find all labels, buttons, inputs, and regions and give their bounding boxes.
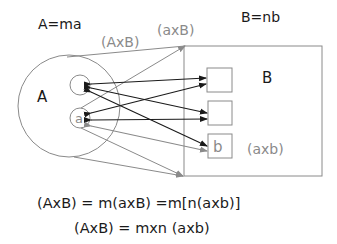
set-a-circle	[18, 55, 120, 157]
element-b-label: b	[213, 138, 223, 156]
element-box-middle	[208, 101, 232, 125]
cartesian-product-diagram: A=ma B=nb (AxB) (axB) A a B b (axb) (AxB…	[0, 0, 337, 244]
arrow-top-to-box-top	[91, 78, 206, 84]
product-upper-label: (AxB)	[101, 34, 139, 50]
set-a-label: A	[37, 88, 48, 106]
element-circle-top	[70, 75, 90, 95]
element-box-top	[207, 68, 232, 92]
arrow-a-to-box-middle	[91, 119, 207, 120]
element-a-label: a	[75, 111, 83, 126]
equation-2: (AxB) = mxn (axb)	[74, 220, 210, 236]
element-a-to-b-corner-top	[81, 46, 185, 108]
set-a-definition: A=ma	[38, 16, 82, 32]
cone-line-bottom	[74, 157, 183, 176]
set-b-label: B	[262, 69, 272, 87]
product-small-upper-label: (axB)	[157, 22, 194, 38]
product-small-label: (axb)	[247, 141, 284, 157]
equation-1: (AxB) = m(axB) =m[n(axb)]	[37, 195, 240, 211]
set-b-definition: B=nb	[241, 9, 280, 25]
